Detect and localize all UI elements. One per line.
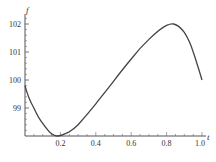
y-tick-label: 102: [9, 20, 21, 29]
x-tick-label: 0.4: [91, 139, 101, 148]
x-tick-label: 0.2: [55, 139, 65, 148]
line-chart: 102 101 100 99 0.2 0.4 0.6 0.8 1.0 f t: [0, 0, 216, 162]
x-axis-label: t: [207, 132, 210, 142]
y-axis-label: f: [26, 5, 30, 15]
y-minor-ticks: [25, 18, 27, 130]
x-tick-label: 0.6: [126, 139, 136, 148]
y-tick-label: 100: [9, 76, 21, 85]
y-tick-label: 101: [9, 48, 21, 57]
x-tick-label: 0.8: [162, 139, 172, 148]
series-line: [25, 24, 202, 136]
y-tick-label: 99: [13, 104, 21, 113]
x-tick-label: 1.0: [195, 139, 205, 148]
